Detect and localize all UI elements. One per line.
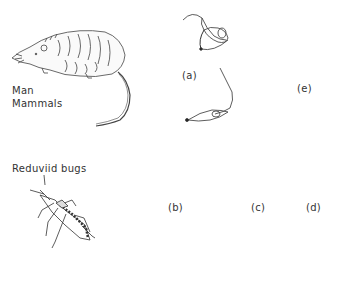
host-label-man: Man [12, 85, 34, 97]
reduviid-bug-illustration [30, 175, 95, 248]
life-cycle-diagram [0, 0, 357, 285]
vector-label: Reduviid bugs [12, 163, 86, 175]
stage-label-b: (b) [168, 202, 183, 214]
mammal-illustration [12, 31, 130, 126]
trypomastigote-a-upper [183, 14, 228, 50]
stage-label-c: (c) [251, 202, 265, 214]
stage-label-a: (a) [182, 70, 197, 82]
stage-label-d: (d) [306, 202, 321, 214]
stage-label-e: (e) [297, 83, 312, 95]
host-label-mammals: Mammals [12, 98, 62, 110]
